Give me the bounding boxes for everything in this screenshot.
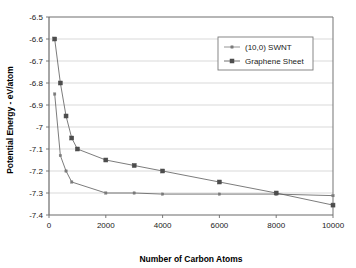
data-point-marker bbox=[133, 192, 135, 194]
data-point-marker bbox=[161, 193, 163, 195]
data-point-marker bbox=[65, 170, 67, 172]
legend-marker bbox=[230, 59, 234, 63]
data-point-marker bbox=[59, 154, 61, 156]
data-point-marker bbox=[132, 164, 136, 168]
y-tick-label: -6.7 bbox=[29, 57, 43, 66]
legend-label-swnt[interactable]: (10,0) SWNT bbox=[245, 43, 292, 52]
chart-svg: -7.4-7.3-7.2-7.1-7-6.9-6.8-6.7-6.6-6.5 0… bbox=[0, 0, 356, 268]
x-tick-label: 8000 bbox=[267, 221, 285, 230]
y-tick-label: -6.8 bbox=[29, 79, 43, 88]
data-point-marker bbox=[274, 191, 278, 195]
data-point-marker bbox=[217, 180, 221, 184]
data-point-marker bbox=[331, 203, 335, 207]
y-tick-label: -6.9 bbox=[29, 101, 43, 110]
y-tick-label: -7 bbox=[36, 123, 44, 132]
data-point-marker bbox=[64, 114, 68, 118]
legend-marker bbox=[231, 46, 233, 48]
data-point-marker bbox=[161, 169, 165, 173]
data-point-marker bbox=[75, 147, 79, 151]
y-tick-label: -7.3 bbox=[29, 189, 43, 198]
x-tick-label: 6000 bbox=[211, 221, 229, 230]
y-tick-label: -7.4 bbox=[29, 211, 43, 220]
data-point-marker bbox=[70, 136, 74, 140]
y-tick-label: -6.5 bbox=[29, 13, 43, 22]
x-tick-label: 0 bbox=[47, 221, 52, 230]
chart-legend[interactable]: (10,0) SWNTGraphene Sheet bbox=[218, 37, 313, 70]
y-tick-label: -6.6 bbox=[29, 35, 43, 44]
data-point-marker bbox=[104, 158, 108, 162]
data-point-marker bbox=[71, 181, 73, 183]
legend-label-graphene[interactable]: Graphene Sheet bbox=[245, 57, 304, 66]
y-tick-label: -7.1 bbox=[29, 145, 43, 154]
data-point-marker bbox=[53, 37, 57, 41]
data-point-marker bbox=[105, 192, 107, 194]
y-tick-label: -7.2 bbox=[29, 167, 43, 176]
data-point-marker bbox=[332, 194, 334, 196]
x-axis-title: Number of Carbon Atoms bbox=[139, 254, 242, 264]
chart-container: -7.4-7.3-7.2-7.1-7-6.9-6.8-6.7-6.6-6.5 0… bbox=[0, 0, 356, 268]
data-point-marker bbox=[218, 193, 220, 195]
data-point-marker bbox=[53, 93, 55, 95]
x-tick-label: 10000 bbox=[322, 221, 345, 230]
y-axis-title: Potential Energy - eV/atom bbox=[5, 66, 15, 174]
x-tick-label: 4000 bbox=[154, 221, 172, 230]
data-point-marker bbox=[58, 81, 62, 85]
x-tick-label: 2000 bbox=[97, 221, 115, 230]
